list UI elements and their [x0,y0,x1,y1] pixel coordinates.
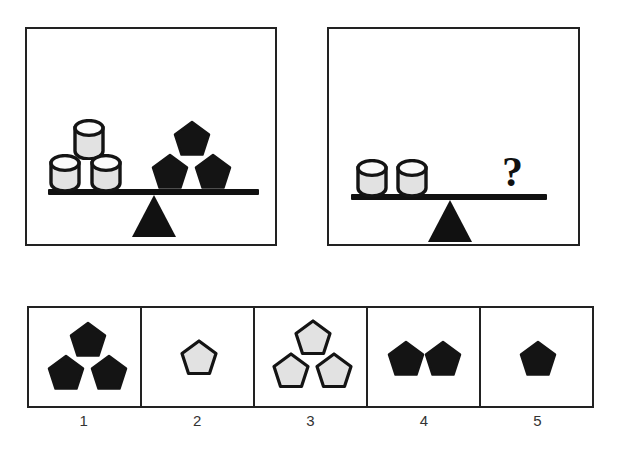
answer-option-2[interactable] [142,308,255,406]
option-3-shapes [255,308,366,406]
answer-options-strip [27,306,594,408]
pentagon-top [294,319,332,356]
cylinder-bottom-left [48,154,82,192]
pentagon-bottom-left [151,153,189,190]
pentagon-left [387,340,425,377]
answer-label-1: 1 [27,410,140,436]
cylinder-bottom-right [89,154,123,192]
option-2-shapes [142,308,253,406]
answer-option-labels: 1 2 3 4 5 [27,410,594,436]
answer-label-4: 4 [367,410,480,436]
pentagon-single [180,339,218,376]
pentagon-top [173,120,211,157]
pentagon-bottom-right [315,352,353,389]
fulcrum-triangle [132,195,176,237]
question-balance-panel: ? [327,27,580,246]
answer-option-4[interactable] [368,308,481,406]
pentagon-bottom-right [194,153,232,190]
pentagon-right [424,340,462,377]
answer-label-2: 2 [140,410,253,436]
cylinder-left [355,159,389,197]
pentagon-bottom-right [90,354,128,391]
answer-option-1[interactable] [29,308,142,406]
answer-option-5[interactable] [481,308,592,406]
option-4-shapes [368,308,479,406]
puzzle-root: ? [0,0,622,454]
pentagon-bottom-left [47,354,85,391]
answer-label-5: 5 [481,410,594,436]
pentagon-top [69,321,107,358]
balance-scale-given [27,29,275,244]
answer-option-3[interactable] [255,308,368,406]
pentagon-single [519,340,557,377]
option-1-shapes [29,308,140,406]
cylinder-right [395,159,429,197]
answer-label-3: 3 [254,410,367,436]
balance-scale-question: ? [329,29,578,244]
given-balance-panel [25,27,277,246]
question-mark-symbol: ? [502,151,523,193]
option-5-shapes [481,308,592,406]
pentagon-bottom-left [272,352,310,389]
fulcrum-triangle [428,200,472,242]
